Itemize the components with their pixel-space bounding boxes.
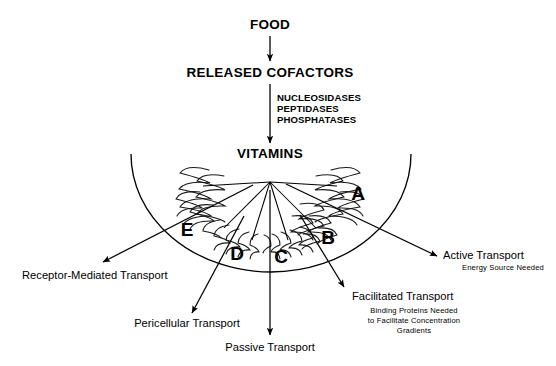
- node-vitamins: VITAMINS: [237, 146, 303, 161]
- node-released-cofactors: RELEASED COFACTORS: [186, 65, 353, 80]
- intestinal-lumen-arc: [131, 154, 411, 272]
- label-facilitated-detail-line2: to Facilitate Concentration: [368, 316, 460, 326]
- arrow-pericellular-transport: [192, 216, 244, 313]
- label-active-transport-detail: Energy Source Needed: [462, 263, 544, 273]
- enzyme-nucleosidases: NUCLEOSIDASES: [277, 92, 361, 104]
- diagram-canvas: FOOD RELEASED COFACTORS NUCLEOSIDASES PE…: [0, 0, 556, 366]
- region-letter-e: E: [181, 219, 194, 240]
- label-passive-transport: Passive Transport: [225, 341, 315, 354]
- node-food: FOOD: [250, 17, 290, 32]
- label-facilitated-detail-line3: Gradients: [397, 326, 431, 336]
- region-letter-d: D: [230, 243, 244, 264]
- region-letter-b: B: [321, 227, 335, 248]
- label-active-transport: Active Transport: [443, 249, 524, 262]
- region-letter-a: A: [351, 183, 365, 204]
- vitamin-absorption-diagram: [0, 0, 556, 366]
- enzyme-peptidases: PEPTIDASES: [277, 103, 339, 115]
- region-letter-c: C: [274, 246, 288, 267]
- label-receptor-mediated-transport: Receptor-Mediated Transport: [22, 269, 168, 282]
- enzyme-phosphatases: PHOSPHATASES: [277, 114, 356, 126]
- label-pericellular-transport: Pericellular Transport: [134, 317, 240, 330]
- label-facilitated-transport: Facilitated Transport: [352, 290, 453, 303]
- label-facilitated-detail-line1: Binding Proteins Needed: [370, 306, 457, 316]
